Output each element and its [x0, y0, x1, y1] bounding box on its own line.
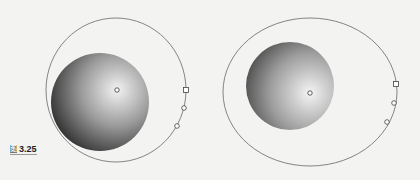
right-diagram: [223, 18, 399, 166]
figure-number: 3.25: [19, 144, 37, 154]
left-diagram: [46, 18, 189, 162]
gradient-rotate-handle-circle[interactable]: [175, 124, 180, 129]
figure-label: 图: [10, 145, 17, 153]
gradient-sphere: [51, 53, 149, 151]
gradient-radius-handle-square[interactable]: [394, 82, 399, 87]
gradient-rotate-handle-circle[interactable]: [385, 120, 390, 125]
gradient-focus-handle-circle[interactable]: [392, 101, 397, 106]
gradient-sphere: [246, 42, 334, 130]
gradient-focus-handle-circle[interactable]: [182, 106, 187, 111]
gradient-radius-handle-square[interactable]: [184, 88, 189, 93]
gradient-center-handle[interactable]: [308, 91, 312, 95]
gradient-center-handle[interactable]: [115, 88, 119, 92]
figure-caption: 图 3.25: [10, 144, 37, 155]
gradient-diagram-canvas: [0, 0, 420, 180]
